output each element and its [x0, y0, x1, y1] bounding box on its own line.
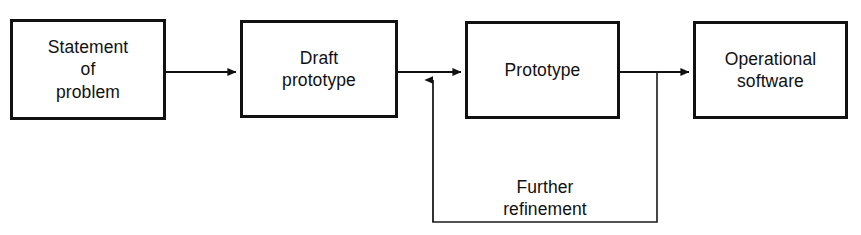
node-label: Draft prototype	[278, 47, 360, 92]
node-draft-prototype: Draft prototype	[240, 20, 398, 118]
node-label: Prototype	[501, 59, 585, 81]
node-statement-of-problem: Statement of problem	[10, 19, 166, 120]
edge-label-further-refinement: Further refinement	[470, 176, 620, 221]
node-label: Operational software	[721, 48, 821, 93]
node-prototype: Prototype	[465, 21, 620, 119]
node-label: Statement of problem	[44, 36, 133, 103]
flowchart-diagram: Statement of problem Draft prototype Pro…	[0, 0, 861, 235]
node-operational-software: Operational software	[693, 21, 848, 119]
